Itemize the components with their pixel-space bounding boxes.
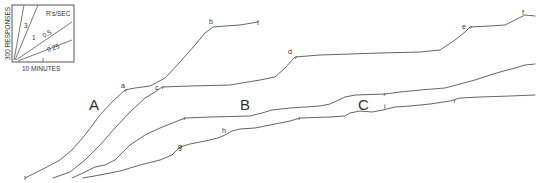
panel-label-c: C <box>358 96 369 113</box>
record-curve-a2 <box>53 15 535 178</box>
rate-label-3: 3 <box>24 22 28 29</box>
pip-b1 <box>184 117 185 120</box>
point-label-e: e <box>462 23 466 30</box>
panel-label-b: B <box>240 96 250 113</box>
record-curve-b <box>72 64 535 178</box>
point-label-d: d <box>288 48 292 55</box>
rate-line-3 <box>14 5 24 60</box>
pip-c1 <box>299 117 300 120</box>
point-label-c: c <box>155 84 159 91</box>
record-curve-a1 <box>25 22 258 178</box>
point-label-f: f <box>522 9 524 16</box>
rate-line-1 <box>15 5 38 60</box>
pip-e <box>470 26 472 29</box>
rate-line-0-25 <box>18 40 72 61</box>
pip-c <box>162 86 164 89</box>
rate-scale-inset: 3 1 R's/SEC 0.5 0.25 300 RESPONSES 10 MI… <box>4 5 74 72</box>
rate-label-0-5: 0.5 <box>41 28 53 39</box>
rate-label-0-25: 0.25 <box>46 42 61 53</box>
record-curve-c <box>83 95 535 178</box>
pip-c2 <box>454 100 455 103</box>
panel-label-a: A <box>89 96 99 113</box>
y-scale-label: 300 RESPONSES <box>4 6 11 60</box>
pip-b2 <box>384 93 385 96</box>
x-scale-label: 10 MINUTES <box>22 65 61 72</box>
point-label-a: a <box>121 82 125 89</box>
rate-label-1: 1 <box>32 34 36 41</box>
point-label-h: h <box>222 127 226 134</box>
point-label-g: g <box>178 143 182 151</box>
cumulative-record-figure: 3 1 R's/SEC 0.5 0.25 300 RESPONSES 10 MI… <box>0 0 542 183</box>
rate-title: R's/SEC <box>46 10 71 17</box>
pip-d <box>295 56 297 59</box>
point-label-b: b <box>209 18 213 25</box>
